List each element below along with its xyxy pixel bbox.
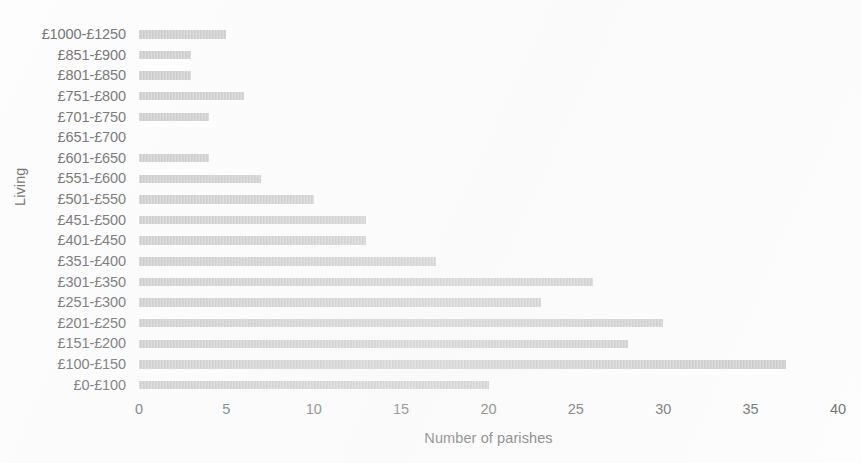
bar-row: £201-£250: [0, 313, 838, 334]
bar-row: £451-£500: [0, 210, 838, 231]
bar-row: £351-£400: [0, 251, 838, 272]
horizontal-bar-chart: Living £1000-£1250£851-£900£801-£850£751…: [0, 0, 861, 463]
y-axis-tick-label: £0-£100: [0, 375, 126, 396]
x-axis-tick-labels: 0510152025303540: [0, 396, 861, 422]
x-axis-tick-label: 40: [808, 396, 861, 422]
y-axis-tick-label: £651-£700: [0, 127, 126, 148]
bar: [139, 216, 366, 224]
bar: [139, 92, 244, 100]
bar-row: £601-£650: [0, 148, 838, 169]
y-axis-tick-label: £151-£200: [0, 333, 126, 354]
bar: [139, 360, 786, 368]
bar: [139, 236, 366, 244]
y-axis-tick-label: £351-£400: [0, 251, 126, 272]
x-axis-tick-label: 0: [109, 396, 169, 422]
y-axis-tick-label: £100-£150: [0, 354, 126, 375]
y-axis-tick-label: £501-£550: [0, 189, 126, 210]
y-axis-tick-label: £551-£600: [0, 168, 126, 189]
y-axis-tick-label: £301-£350: [0, 272, 126, 293]
bar: [139, 278, 593, 286]
bar: [139, 319, 663, 327]
y-axis-tick-label: £251-£300: [0, 292, 126, 313]
x-axis-tick-label: 30: [633, 396, 693, 422]
bar: [139, 298, 541, 306]
y-axis-tick-label: £401-£450: [0, 230, 126, 251]
bar: [139, 175, 261, 183]
bar: [139, 381, 489, 389]
y-axis-tick-label: £201-£250: [0, 313, 126, 334]
y-axis-tick-label: £1000-£1250: [0, 24, 126, 45]
y-axis-tick-label: £701-£750: [0, 107, 126, 128]
bar-row: £151-£200: [0, 333, 838, 354]
bar-row: £401-£450: [0, 230, 838, 251]
bar: [139, 154, 209, 162]
plot-area: £1000-£1250£851-£900£801-£850£751-£800£7…: [139, 24, 838, 396]
bar-row: £651-£700: [0, 127, 838, 148]
x-axis-tick-label: 5: [196, 396, 256, 422]
bar-row: £100-£150: [0, 354, 838, 375]
bar: [139, 51, 191, 59]
bar-row: £251-£300: [0, 292, 838, 313]
x-axis-tick-label: 25: [546, 396, 606, 422]
bar: [139, 30, 226, 38]
y-axis-tick-label: £851-£900: [0, 45, 126, 66]
bar-row: £301-£350: [0, 272, 838, 293]
x-axis-tick-label: 35: [721, 396, 781, 422]
bar: [139, 113, 209, 121]
y-axis-tick-label: £601-£650: [0, 148, 126, 169]
bar-row: £0-£100: [0, 375, 838, 396]
bar-row: £751-£800: [0, 86, 838, 107]
y-axis-tick-label: £751-£800: [0, 86, 126, 107]
x-axis-title: Number of parishes: [139, 430, 838, 446]
bar-row: £1000-£1250: [0, 24, 838, 45]
bar: [139, 257, 436, 265]
y-axis-tick-label: £451-£500: [0, 210, 126, 231]
bar: [139, 340, 628, 348]
bar: [139, 195, 314, 203]
x-axis-tick-label: 15: [371, 396, 431, 422]
bar: [139, 71, 191, 79]
bar-row: £701-£750: [0, 107, 838, 128]
bar-row: £501-£550: [0, 189, 838, 210]
bar-row: £801-£850: [0, 65, 838, 86]
bar-row: £551-£600: [0, 168, 838, 189]
y-axis-tick-label: £801-£850: [0, 65, 126, 86]
x-axis-tick-label: 20: [459, 396, 519, 422]
bar-row: £851-£900: [0, 45, 838, 66]
x-axis-tick-label: 10: [284, 396, 344, 422]
